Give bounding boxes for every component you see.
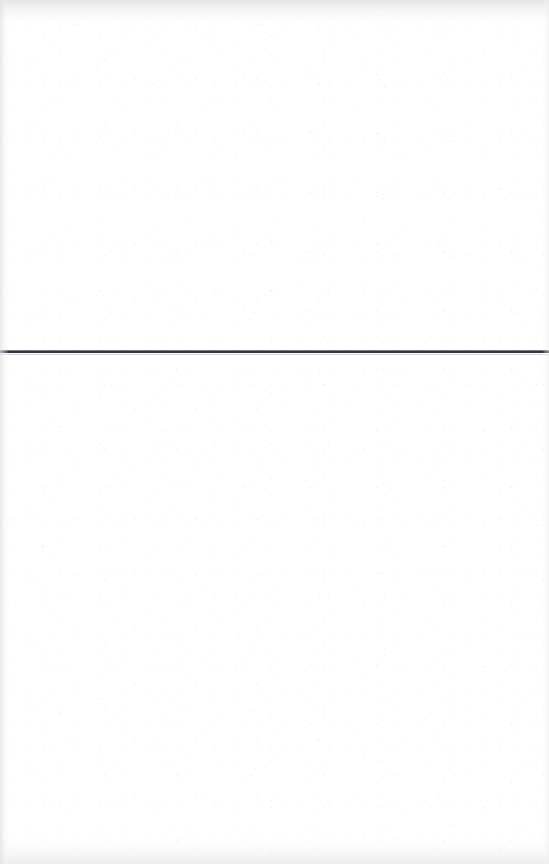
scanned-page [0,0,549,864]
content-region-above-rule [0,0,549,351]
horizontal-rule [0,349,549,355]
content-region-below-rule [0,357,549,864]
horizontal-rule-ghost [0,354,549,355]
horizontal-rule-core [0,351,549,353]
